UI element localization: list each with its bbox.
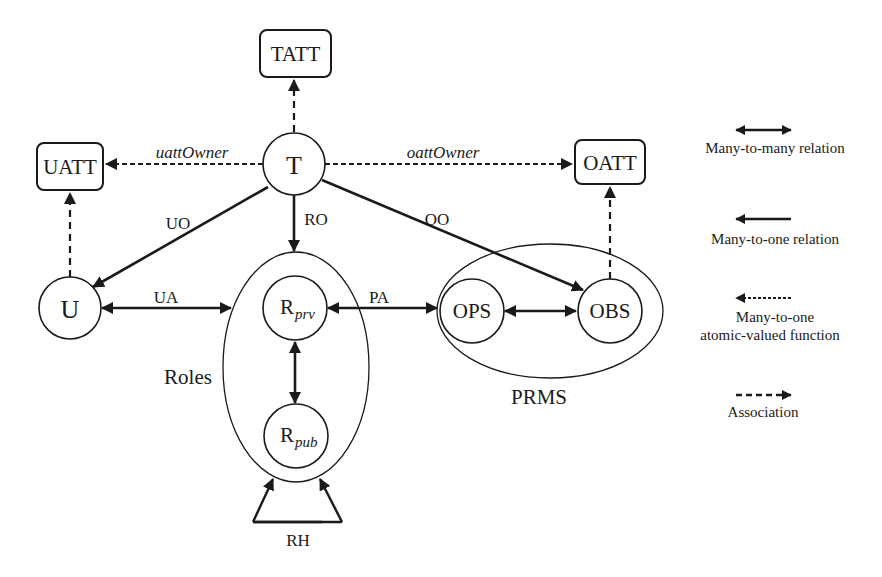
edge-rh-left	[253, 479, 273, 522]
node-r-pub-subscript: pub	[294, 434, 318, 450]
edge-uo	[93, 187, 268, 287]
node-obs-label: OBS	[590, 299, 631, 323]
node-r-pub[interactable]: R pub	[264, 404, 328, 468]
group-label-roles: Roles	[164, 365, 212, 389]
node-uatt[interactable]: UATT	[37, 143, 103, 190]
edge-rh-right	[320, 479, 342, 522]
legend-many-to-many-label: Many-to-many relation	[705, 140, 845, 156]
node-u[interactable]: U	[39, 277, 101, 339]
node-r-pub-label: R	[280, 423, 294, 447]
edge-label-ro: RO	[304, 210, 328, 229]
node-r-prv-subscript: prv	[294, 306, 315, 322]
edge-label-uo: UO	[166, 214, 191, 233]
edge-label-ua: UA	[154, 288, 179, 307]
node-obs[interactable]: OBS	[578, 279, 642, 343]
legend-many-to-one-label: Many-to-one relation	[711, 231, 839, 247]
legend-atomic-function-label-2: atomic-valued function	[700, 327, 840, 343]
edge-label-pa: PA	[369, 288, 390, 307]
node-ops-label: OPS	[453, 299, 492, 323]
node-u-label: U	[61, 295, 80, 324]
group-label-prms: PRMS	[511, 385, 567, 409]
node-oatt-label: OATT	[583, 151, 637, 175]
edge-label-rh: RH	[286, 531, 310, 550]
edge-oo	[322, 180, 583, 290]
edge-label-oo: OO	[425, 210, 450, 229]
legend-atomic-function-label-1: Many-to-one	[736, 309, 815, 325]
node-oatt[interactable]: OATT	[575, 140, 645, 184]
node-t-label: T	[286, 151, 302, 180]
node-t[interactable]: T	[263, 133, 325, 195]
node-uatt-label: UATT	[43, 155, 97, 179]
node-r-prv[interactable]: R prv	[263, 276, 327, 340]
edge-label-uattowner: uattOwner	[156, 143, 229, 162]
node-tatt-label: TATT	[271, 42, 321, 66]
node-r-prv-label: R	[280, 295, 294, 319]
legend-association-label: Association	[728, 404, 799, 420]
edge-label-oattowner: oattOwner	[407, 143, 480, 162]
node-tatt[interactable]: TATT	[260, 30, 331, 77]
node-ops[interactable]: OPS	[440, 279, 504, 343]
legend: Many-to-many relation Many-to-one relati…	[700, 130, 845, 420]
rbac-diagram: TATT UATT OATT T U R prv R pub OPS OBS	[0, 0, 882, 577]
